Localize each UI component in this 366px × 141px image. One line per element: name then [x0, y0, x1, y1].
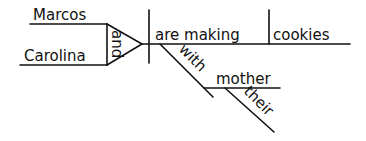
verb: are making [155, 26, 240, 44]
conjunction-and: and [108, 30, 126, 58]
sentence-diagram: Marcos Carolina and are making cookies w… [0, 0, 366, 141]
object-mother: mother [216, 70, 271, 88]
preposition-with: with [175, 40, 210, 75]
subject-carolina: Carolina [24, 47, 86, 65]
direct-object: cookies [273, 26, 330, 44]
subject-marcos: Marcos [33, 6, 86, 24]
